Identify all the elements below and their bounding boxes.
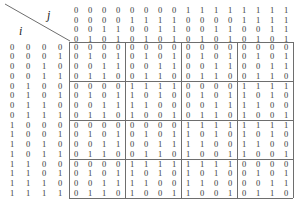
col-header-bit: 1: [181, 6, 195, 15]
matrix-cell: 1: [139, 101, 153, 110]
col-header-bit: 0: [237, 25, 251, 34]
matrix-cell: 0: [209, 91, 223, 100]
matrix-cell: 1: [209, 62, 223, 71]
row-header-bit: 0: [53, 179, 67, 188]
matrix-cell: 0: [167, 169, 181, 178]
matrix-cell: 1: [237, 91, 251, 100]
matrix-cell: 1: [237, 140, 251, 149]
matrix-cell: 0: [251, 160, 265, 169]
matrix-cell: 0: [69, 43, 83, 52]
row-header-bit: 0: [21, 130, 35, 139]
row-header-bit: 1: [37, 62, 51, 71]
row-header-bit: 1: [37, 189, 51, 198]
matrix-cell: 1: [181, 121, 195, 130]
matrix-cell: 0: [251, 43, 265, 52]
row-header-bit: 0: [5, 72, 19, 81]
matrix-cell: 1: [83, 130, 97, 139]
matrix-cell: 1: [209, 111, 223, 120]
row-header-bit: 1: [21, 111, 35, 120]
matrix-cell: 0: [237, 179, 251, 188]
col-header-bit: 1: [153, 25, 167, 34]
matrix-cell: 0: [139, 43, 153, 52]
row-header-bit: 1: [53, 91, 67, 100]
matrix-cell: 1: [209, 121, 223, 130]
matrix-cell: 1: [97, 111, 111, 120]
matrix-cell: 0: [265, 160, 279, 169]
matrix-cell: 0: [251, 62, 265, 71]
row-header-bit: 0: [53, 121, 67, 130]
matrix-cell: 0: [83, 160, 97, 169]
row-header-bit: 1: [21, 179, 35, 188]
matrix-cell: 1: [139, 82, 153, 91]
row-header-bit: 1: [53, 130, 67, 139]
matrix-cell: 0: [265, 150, 279, 159]
matrix-cell: 0: [153, 121, 167, 130]
matrix-cell: 1: [97, 179, 111, 188]
matrix-cell: 1: [111, 169, 125, 178]
matrix-cell: 1: [279, 179, 293, 188]
matrix-cell: 0: [69, 91, 83, 100]
matrix-cell: 1: [139, 72, 153, 81]
matrix-cell: 1: [251, 169, 265, 178]
matrix-cell: 0: [153, 111, 167, 120]
matrix-cell: 0: [97, 52, 111, 61]
grid-line-vertical: [293, 42, 294, 198]
row-header-bit: 1: [5, 169, 19, 178]
matrix-cell: 1: [181, 150, 195, 159]
matrix-cell: 1: [265, 130, 279, 139]
col-header-bit: 1: [209, 25, 223, 34]
row-header-bit: 0: [21, 72, 35, 81]
matrix-cell: 1: [195, 111, 209, 120]
row-header-bit: 0: [37, 160, 51, 169]
matrix-cell: 1: [111, 130, 125, 139]
row-header-bit: 0: [53, 160, 67, 169]
matrix-cell: 0: [237, 189, 251, 198]
col-header-bit: 0: [83, 25, 97, 34]
matrix-cell: 0: [167, 179, 181, 188]
matrix-cell: 1: [167, 62, 181, 71]
matrix-cell: 1: [181, 179, 195, 188]
matrix-cell: 0: [209, 140, 223, 149]
col-header-bit: 1: [279, 6, 293, 15]
matrix-cell: 0: [251, 111, 265, 120]
row-header-bit: 0: [37, 82, 51, 91]
matrix-cell: 1: [83, 91, 97, 100]
matrix-cell: 1: [167, 52, 181, 61]
matrix-cell: 0: [83, 140, 97, 149]
row-header-bit: 1: [53, 169, 67, 178]
matrix-cell: 0: [69, 111, 83, 120]
matrix-cell: 0: [181, 111, 195, 120]
matrix-cell: 0: [279, 140, 293, 149]
matrix-cell: 1: [195, 160, 209, 169]
matrix-cell: 0: [111, 72, 125, 81]
matrix-cell: 0: [223, 169, 237, 178]
matrix-cell: 0: [69, 72, 83, 81]
matrix-cell: 0: [223, 43, 237, 52]
row-header-bit: 1: [37, 101, 51, 110]
matrix-cell: 0: [83, 43, 97, 52]
matrix-cell: 1: [167, 82, 181, 91]
col-header-bit: 0: [195, 25, 209, 34]
matrix-cell: 1: [97, 140, 111, 149]
col-header-bit: 1: [97, 25, 111, 34]
matrix-cell: 1: [209, 101, 223, 110]
matrix-cell: 1: [167, 140, 181, 149]
col-header-bit: 0: [251, 25, 265, 34]
matrix-cell: 0: [97, 169, 111, 178]
matrix-cell: 0: [69, 52, 83, 61]
matrix-cell: 1: [251, 140, 265, 149]
matrix-cell: 1: [265, 121, 279, 130]
matrix-cell: 0: [209, 82, 223, 91]
matrix-cell: 1: [97, 150, 111, 159]
matrix-cell: 0: [195, 82, 209, 91]
col-header-bit: 1: [209, 6, 223, 15]
row-header-bit: 1: [21, 189, 35, 198]
matrix-cell: 0: [69, 179, 83, 188]
matrix-cell: 0: [97, 121, 111, 130]
matrix-cell: 1: [125, 91, 139, 100]
matrix-cell: 1: [111, 179, 125, 188]
matrix-cell: 0: [69, 62, 83, 71]
matrix-cell: 0: [209, 43, 223, 52]
matrix-cell: 1: [83, 111, 97, 120]
matrix-cell: 1: [83, 72, 97, 81]
